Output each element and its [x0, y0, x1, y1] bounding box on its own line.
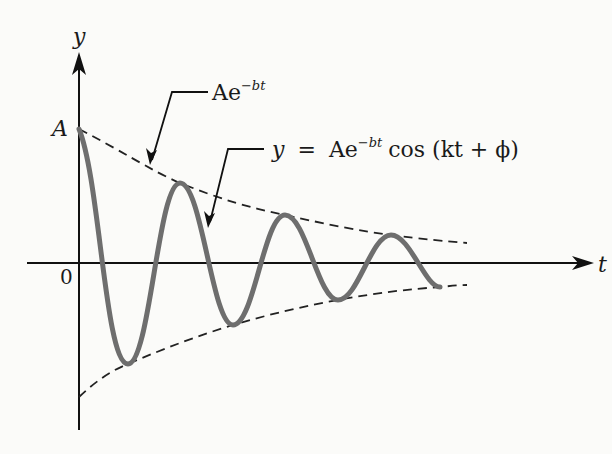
equation-rest: cos (kt + ϕ)	[388, 137, 519, 162]
curve-equation-label: y = Ae−btcos (kt + ϕ)	[271, 135, 519, 162]
equation-base: Ae	[328, 137, 358, 162]
damped-curve	[79, 129, 440, 364]
envelope-label: Ae−bt	[211, 78, 266, 105]
envelope-exponent: −bt	[241, 78, 266, 93]
origin-label: 0	[60, 265, 73, 289]
envelope-leader-line	[152, 92, 208, 160]
envelope-annotation: Ae−bt	[146, 78, 266, 165]
x-axis-label: t	[598, 252, 607, 277]
amplitude-label: A	[50, 116, 68, 141]
axes	[27, 52, 594, 430]
lower-envelope	[79, 285, 467, 397]
envelope-base: Ae	[211, 80, 241, 105]
equation-exponent: −bt	[358, 135, 383, 150]
curve-leader-line	[210, 149, 264, 222]
equation-lhs: y	[271, 137, 285, 162]
curve-arrow-icon	[204, 211, 215, 228]
damped-oscillation-figure: y t 0 A Ae−bt y = Ae−btcos (kt + ϕ)	[0, 0, 612, 454]
equation-equals: =	[297, 137, 315, 162]
y-axis-label: y	[72, 24, 86, 49]
curve-annotation: y = Ae−btcos (kt + ϕ)	[204, 135, 519, 228]
